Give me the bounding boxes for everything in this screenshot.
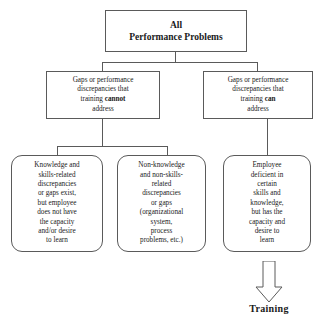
node-can-emphasis: can [265,95,276,103]
leaf-employee-label: Employee deficient in certain skills and… [224,161,310,246]
node-can-line4: address [247,105,269,113]
down-block-arrow-icon [254,261,284,303]
leaf-employee-deficient: Employee deficient in certain skills and… [223,155,311,252]
connector-cannot-stem [102,119,103,147]
node-can-text: Gaps or performance discrepancies that t… [204,76,312,114]
node-training-cannot-address: Gaps or performance discrepancies that t… [46,71,160,119]
node-all-performance-problems: All Performance Problems [105,10,247,52]
leaf-non-knowledge-label: Non-knowledge and non-skills- related di… [118,161,205,246]
connector-to-knowledge [57,146,58,155]
leaf-non-knowledge-non-skills: Non-knowledge and non-skills- related di… [117,155,206,252]
node-cannot-line2: discrepancies that [77,85,128,93]
connector-to-cannot [102,62,103,71]
connector-can-stem [267,119,268,155]
connector-to-non-knowledge [167,146,168,155]
node-cannot-line1: Gaps or performance [73,76,134,84]
node-cannot-text: Gaps or performance discrepancies that t… [47,76,159,114]
node-can-line3-prefix: training [241,95,265,103]
outcome-label-training: Training [229,303,309,314]
connector-cannot-bus [57,146,168,147]
flowchart-canvas: All Performance Problems Gaps or perform… [0,0,321,326]
node-can-line1: Gaps or performance [228,76,289,84]
node-training-can-address: Gaps or performance discrepancies that t… [203,71,313,119]
leaf-knowledge-label: Knowledge and skills-related discrepanci… [12,161,102,246]
node-root-label: All Performance Problems [106,19,246,44]
node-cannot-line3-prefix: training [81,95,105,103]
node-can-line2: discrepancies that [232,85,283,93]
connector-root-bus [102,62,257,63]
node-cannot-emphasis: cannot [105,95,126,103]
leaf-knowledge-skills-related: Knowledge and skills-related discrepanci… [11,155,103,252]
node-cannot-line4: address [92,105,114,113]
connector-to-can [257,62,258,71]
